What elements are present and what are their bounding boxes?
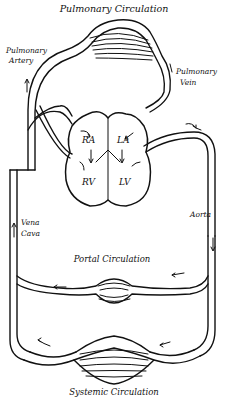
heart: [66, 112, 151, 206]
label-portal-circulation: Portal Circulation: [73, 254, 151, 264]
label-aorta: Aorta: [189, 210, 211, 219]
label-systemic-circulation: Systemic Circulation: [69, 387, 159, 397]
label-vena-cava-1: Vena: [21, 218, 39, 227]
systemic-loop: [24, 336, 200, 384]
title-pulmonary-circulation: Pulmonary Circulation: [59, 3, 169, 14]
label-right-ventricle: RV: [81, 177, 96, 187]
label-vena-cava-2: Cava: [21, 229, 40, 238]
label-pulmonary-artery-1: Pulmonary: [5, 46, 48, 55]
circulation-diagram: Pulmonary Circulation Pulmonary Artery P…: [0, 0, 229, 399]
label-pulmonary-vein-1: Pulmonary: [175, 67, 218, 76]
label-pulmonary-artery-2: Artery: [8, 56, 34, 65]
portal-loop: [17, 273, 208, 303]
label-right-atrium: RA: [81, 135, 96, 145]
label-left-ventricle: LV: [118, 177, 132, 187]
label-pulmonary-vein-2: Vein: [180, 78, 197, 87]
label-left-atrium: LA: [116, 135, 130, 145]
